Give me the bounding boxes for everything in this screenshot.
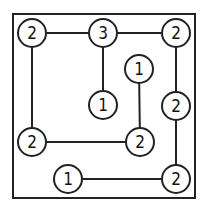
- island-value: 2: [162, 165, 190, 193]
- island-value: 2: [126, 128, 154, 156]
- island-value: 2: [162, 19, 190, 47]
- island-value: 1: [125, 55, 153, 83]
- island-value: 3: [89, 19, 117, 47]
- island-value: 2: [18, 128, 46, 156]
- island-value: 2: [162, 92, 190, 120]
- island-value: 1: [89, 91, 117, 119]
- island-value: 2: [18, 19, 46, 47]
- island-value: 1: [54, 165, 82, 193]
